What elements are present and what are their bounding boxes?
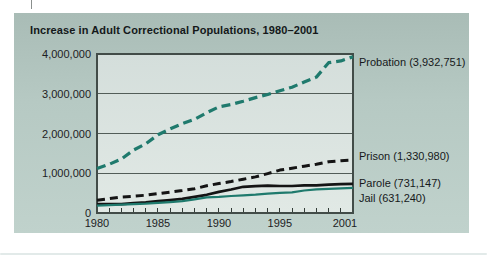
line-chart: [0, 0, 487, 258]
page: Increase in Adult Correctional Populatio…: [0, 0, 487, 258]
page-bottom-rule: [0, 253, 487, 255]
